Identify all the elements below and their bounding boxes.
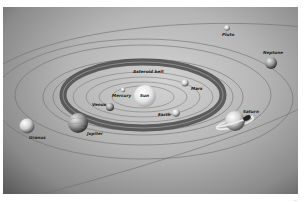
earth-label: Earth (158, 112, 171, 117)
pluto-label: Pluto (222, 32, 234, 37)
planet-pluto (224, 25, 230, 31)
solar-system-diagram: Sun Mercury Venus Earth Mars Asteroid be… (3, 7, 298, 194)
corner-mark: ... (293, 197, 297, 202)
planet-uranus (20, 119, 35, 134)
venus-label: Venus (92, 102, 107, 107)
jupiter-label: Jupiter (86, 131, 104, 136)
mercury-label: Mercury (112, 93, 132, 98)
planet-venus (106, 103, 114, 111)
sun-label: Sun (140, 93, 149, 98)
neptune-label: Neptune (263, 50, 283, 55)
planet-mercury (121, 88, 126, 93)
uranus-label: Uranus (29, 135, 46, 140)
planet-mars (182, 80, 189, 87)
planet-neptune (265, 57, 277, 69)
asteroid-belt-label: Asteroid belt (132, 69, 165, 74)
saturn-label: Saturn (243, 109, 259, 114)
diagram-canvas: Sun Mercury Venus Earth Mars Asteroid be… (3, 7, 298, 194)
planet-earth (172, 109, 180, 117)
mars-label: Mars (191, 86, 203, 91)
